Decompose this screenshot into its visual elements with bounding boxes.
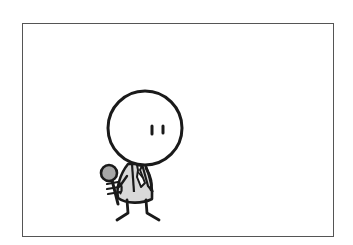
head <box>108 91 182 165</box>
reporter-figure-illustration <box>0 0 353 245</box>
